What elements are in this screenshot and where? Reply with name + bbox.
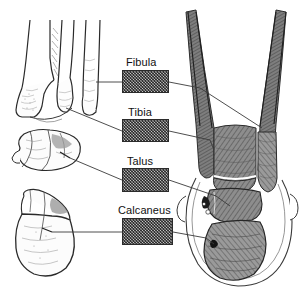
- swatch-tibia[interactable]: [122, 119, 169, 142]
- swatch-fibula[interactable]: [122, 70, 169, 93]
- label-tibia: Tibia: [128, 106, 152, 118]
- anatomy-figure: Fibula Tibia Talus Calcaneus: [0, 0, 299, 295]
- swatch-calcaneus[interactable]: [122, 218, 173, 245]
- figure-artwork: [0, 0, 299, 295]
- label-talus: Talus: [127, 155, 153, 167]
- label-fibula: Fibula: [126, 56, 157, 68]
- swatch-talus[interactable]: [122, 168, 169, 192]
- label-calcaneus: Calcaneus: [118, 204, 171, 216]
